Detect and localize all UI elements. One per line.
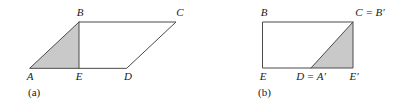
panel-b: B C = B' E D = A' E' (b) <box>258 6 385 99</box>
panel-a-vertex-label-E: E <box>75 70 83 82</box>
panel-b-caption: (b) <box>258 86 271 99</box>
panel-b-vertex-label-E-prime: E' <box>348 70 359 82</box>
panel-a-vertex-label-B: B <box>77 6 84 18</box>
panel-b-vertex-label-E: E <box>259 70 267 82</box>
panel-b-vertex-label-B: B <box>261 6 268 18</box>
panel-a-vertex-label-A: A <box>26 70 34 82</box>
panel-a-vertex-label-D: D <box>123 70 132 82</box>
panel-a: A B C D E (a) <box>26 6 185 99</box>
panel-b-vertex-label-D-equals-A-prime: D = A' <box>295 70 326 82</box>
panel-a-vertex-label-C: C <box>176 6 184 18</box>
panel-b-vertex-label-C-equals-B-prime: C = B' <box>355 6 385 18</box>
geometry-figure: A B C D E (a) B C = B' E D = A' E' (b) <box>0 0 400 104</box>
figure-canvas: A B C D E (a) B C = B' E D = A' E' (b) <box>0 0 400 104</box>
panel-a-caption: (a) <box>28 86 41 99</box>
